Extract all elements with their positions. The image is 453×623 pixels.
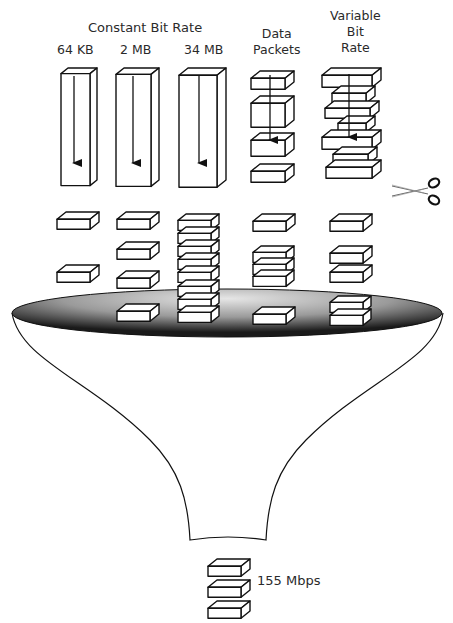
- cell-packet: [253, 307, 295, 324]
- vbr-line-2: Bit: [330, 24, 381, 40]
- funnel-rim: [12, 289, 442, 337]
- cell-packet: [117, 304, 159, 321]
- column-label-34mb: 34 MB: [184, 42, 223, 58]
- cell-packet: [57, 212, 99, 229]
- output-rate-label: 155 Mbps: [257, 573, 320, 589]
- constant-bit-rate-title: Constant Bit Rate: [88, 20, 202, 36]
- data-packet: [251, 96, 294, 127]
- vbr-packet: [322, 68, 381, 87]
- column-label-vbr: Variable Bit Rate: [330, 8, 381, 56]
- cbr-bar-34mb: [179, 68, 226, 187]
- output-packet: [208, 601, 250, 618]
- cbr-streams: [61, 68, 226, 187]
- funnel-body: [12, 313, 443, 540]
- data-packet: [251, 71, 294, 89]
- cell-packet: [253, 214, 295, 231]
- column-label-64kb: 64 KB: [57, 42, 94, 58]
- data-line-2: Packets: [253, 42, 300, 58]
- network-funnel-diagram: Constant Bit Rate 64 KB 2 MB 34 MB Data …: [0, 0, 453, 623]
- cbr-bar-64kb: [61, 68, 97, 186]
- scissors-icon: [392, 177, 441, 206]
- cell-packet: [330, 246, 372, 263]
- cbr-bar-2mb: [116, 68, 159, 186]
- cell-packet: [330, 265, 372, 282]
- data-packet: [251, 164, 294, 182]
- column-label-2mb: 2 MB: [120, 42, 151, 58]
- vbr-line-1: Variable: [330, 8, 381, 24]
- output-packet: [208, 580, 250, 597]
- cell-packet: [57, 265, 99, 282]
- output-packet: [208, 559, 250, 576]
- cell-packet: [117, 271, 159, 288]
- output-packets: [208, 559, 250, 618]
- cell-packet: [117, 212, 159, 229]
- cell-packet: [253, 270, 294, 286]
- diagram-canvas: [0, 0, 453, 623]
- cell-packet: [330, 309, 371, 325]
- cell-packet: [330, 214, 372, 231]
- vbr-line-3: Rate: [330, 40, 381, 56]
- cell-packet: [117, 242, 159, 259]
- vbr-packet: [326, 160, 381, 178]
- data-line-1: Data: [253, 26, 300, 42]
- column-label-data-packets: Data Packets: [253, 26, 300, 58]
- data-packet: [251, 133, 294, 156]
- cell-packet: [178, 306, 219, 322]
